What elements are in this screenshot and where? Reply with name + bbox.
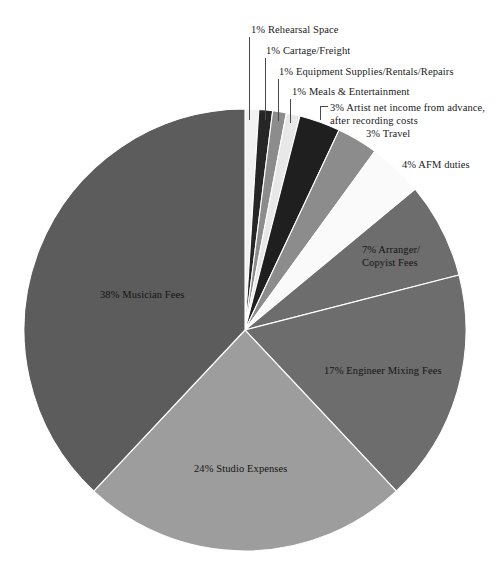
leader-line-meals [290,99,291,123]
leader-line-equipment [278,79,279,121]
leader-line-cartage-freight [265,58,266,120]
label-meals-entertainment: 1% Meals & Entertainment [292,85,410,98]
label-travel: 3% Travel [366,127,410,140]
label-arranger-copyist-fees: 7% Arranger/ Copyist Fees [362,243,448,269]
label-equipment-supplies: 1% Equipment Supplies/Rentals/Repairs [279,65,454,78]
leader-line-rehearsal-space [249,37,250,120]
label-musician-fees: 38% Musician Fees [100,288,185,301]
leader-line-artist-net-income [320,106,328,120]
label-afm-duties: 4% AFM duties [402,158,470,171]
pie-chart-page: 1% Rehearsal Space 1% Cartage/Freight 1%… [0,0,501,582]
label-engineer-mixing-fees: 17% Engineer Mixing Fees [324,364,442,377]
pie-slice-group [24,109,466,551]
label-cartage-freight: 1% Cartage/Freight [266,44,350,57]
label-artist-net-income: 3% Artist net income from advance, after… [330,101,498,127]
label-studio-expenses: 24% Studio Expenses [194,462,287,475]
label-rehearsal-space: 1% Rehearsal Space [251,23,339,36]
pie-chart-canvas [0,0,501,582]
